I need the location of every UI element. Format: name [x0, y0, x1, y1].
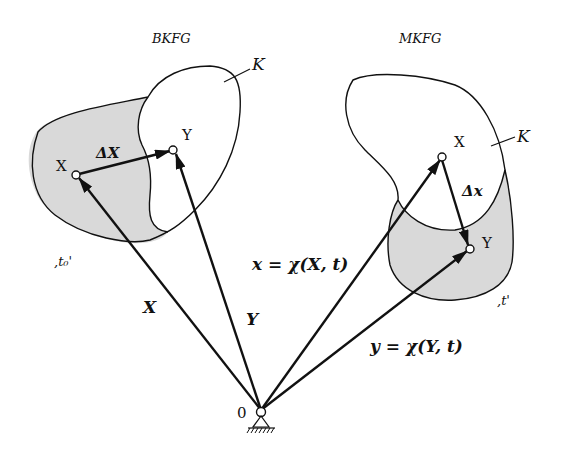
origin-support: 0 [237, 404, 275, 433]
support-triangle-icon [253, 416, 269, 427]
point-Y-label-left: Y [181, 126, 193, 144]
vector-y [261, 251, 467, 410]
delta-x-label: Δx [461, 182, 484, 200]
equation-y: y = χ(Y, t) [369, 336, 463, 356]
point-X-label-left: X [56, 157, 67, 175]
reference-configuration: K BKFG ,t₀' ΔX X Y [29, 31, 266, 269]
config-title-left: BKFG [151, 31, 191, 46]
vector-Y [176, 154, 261, 410]
body-label-left: K [251, 54, 266, 74]
point-X-left [72, 171, 80, 179]
vector-Y-label: Y [246, 309, 260, 329]
kinematics-diagram: K BKFG ,t₀' ΔX X Y K MKFG ,t' Δx X Y X Y… [0, 0, 561, 449]
point-X-label-right: X [454, 133, 465, 151]
origin-label: 0 [237, 404, 247, 422]
body-label-leader-right [491, 137, 515, 146]
time-label-left: ,t₀' [54, 254, 72, 269]
point-Y-right [466, 245, 474, 253]
time-label-right: ,t' [497, 293, 510, 308]
delta-X-label: ΔX [95, 144, 121, 162]
config-title-right: MKFG [398, 31, 441, 46]
equation-x: x = χ(X, t) [251, 254, 348, 274]
ground-hatch-icon [247, 428, 274, 433]
point-Y-label-right: Y [481, 234, 493, 252]
vector-X [79, 178, 261, 410]
point-Y-left [169, 146, 177, 154]
current-configuration: K MKFG ,t' Δx X Y [346, 31, 531, 308]
vector-X-label: X [142, 297, 157, 317]
point-X-right [438, 153, 446, 161]
body-label-right: K [516, 126, 531, 146]
